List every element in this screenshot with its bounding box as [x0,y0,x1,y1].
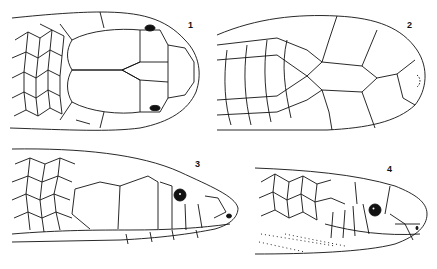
lateral-head-drawing-4 [245,134,437,269]
panel-1-dorsal-head: 1 [0,0,215,135]
panel-4-lateral-head: 4 [245,134,437,269]
ventral-head-drawing [217,0,437,135]
panel-2-ventral-head: 2 [217,0,437,135]
panel-3-lateral-head: 3 [0,134,245,269]
lateral-head-drawing-3 [0,134,245,269]
panel-label-1: 1 [188,20,193,30]
panel-label-4: 4 [387,164,392,174]
dorsal-head-drawing [0,0,215,135]
panel-label-3: 3 [195,159,200,169]
panel-label-2: 2 [407,20,412,30]
